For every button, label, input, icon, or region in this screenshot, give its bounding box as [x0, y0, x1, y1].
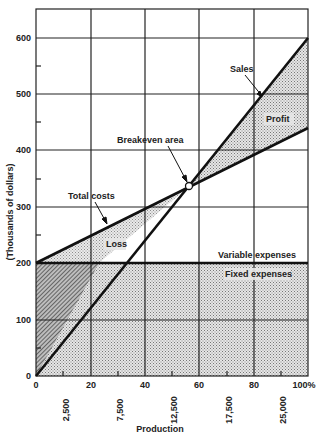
loss-label: Loss	[106, 239, 127, 249]
total-costs-label: Total costs	[68, 191, 115, 201]
svg-text:20: 20	[86, 380, 96, 390]
y-axis-ticks: 0 100 200 300 400 500 600	[16, 33, 31, 381]
breakeven-point	[186, 183, 193, 190]
svg-text:600: 600	[16, 33, 31, 43]
svg-text:300: 300	[16, 202, 31, 212]
svg-text:500: 500	[16, 89, 31, 99]
svg-text:17,500: 17,500	[224, 396, 234, 424]
svg-text:40: 40	[140, 380, 150, 390]
breakeven-chart: Sales Profit Breakeven area Total costs …	[0, 0, 321, 436]
breakeven-label: Breakeven area	[117, 135, 185, 145]
x-axis-secondary-ticks: 2,500 7,500 12,500 17,500 25,000	[61, 396, 288, 424]
svg-text:100: 100	[16, 315, 31, 325]
svg-text:0: 0	[26, 371, 31, 381]
x-axis-label: Production	[136, 424, 184, 434]
x-axis-ticks: 0 20 40 60 80 100%	[33, 380, 315, 390]
profit-label: Profit	[266, 114, 290, 124]
svg-text:12,500: 12,500	[169, 396, 179, 424]
svg-text:60: 60	[194, 380, 204, 390]
svg-text:80: 80	[249, 380, 259, 390]
svg-text:400: 400	[16, 145, 31, 155]
svg-text:0: 0	[33, 380, 38, 390]
svg-text:7,500: 7,500	[115, 399, 125, 422]
sales-label: Sales	[230, 64, 254, 74]
variable-expenses-label: Variable expenses	[218, 250, 296, 260]
svg-text:25,000: 25,000	[278, 396, 288, 424]
svg-text:200: 200	[16, 258, 31, 268]
svg-text:2,500: 2,500	[61, 399, 71, 422]
y-axis-label: (Thousands of dollars)	[5, 163, 15, 260]
fixed-expenses-label: Fixed expenses	[225, 269, 292, 279]
svg-text:100%: 100%	[292, 380, 315, 390]
